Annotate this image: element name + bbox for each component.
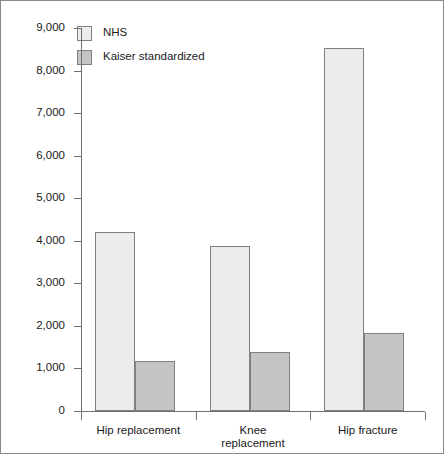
y-axis-tick [74,283,81,284]
bar [250,352,290,411]
legend-label-kaiser: Kaiser standardized [103,51,205,63]
bar [210,246,250,411]
y-axis-tick [74,241,81,242]
x-axis-category-label: Hip fracture [338,424,397,437]
bar [135,361,175,411]
bar-chart-figure: NHS Kaiser standardized 01,0002,0003,000… [0,0,444,454]
y-axis-tick [74,411,81,412]
y-axis-tick-label: 8,000 [36,65,65,77]
y-axis-tick-label: 2,000 [36,320,65,332]
legend-swatch-kaiser [77,50,92,65]
x-axis-tick [81,412,82,420]
bar [364,333,404,411]
y-axis-tick [74,28,81,29]
y-axis-tick-label: 3,000 [36,278,65,290]
y-axis-tick [74,113,81,114]
y-axis-tick [74,198,81,199]
x-axis-category-label: Knee replacement [221,424,284,450]
y-axis-tick [74,326,81,327]
x-axis-tick [196,412,197,420]
bar [324,48,364,411]
x-axis-tick [310,412,311,420]
y-axis-tick-label: 7,000 [36,107,65,119]
y-axis-tick [74,368,81,369]
y-axis-line [81,28,82,412]
y-axis-tick [74,156,81,157]
legend-label-nhs: NHS [103,27,127,39]
y-axis-tick-label: 1,000 [36,363,65,375]
x-axis-category-label: Hip replacement [96,424,180,437]
bar [95,232,135,411]
y-axis-tick-label: 4,000 [36,235,65,247]
legend-item-kaiser: Kaiser standardized [77,45,205,69]
x-axis-tick [425,412,426,420]
y-axis-tick-label: 0 [59,405,65,417]
x-axis-line [81,411,425,412]
y-axis-tick-label: 9,000 [36,22,65,34]
y-axis-tick-label: 6,000 [36,150,65,162]
legend-item-nhs: NHS [77,21,205,45]
y-axis-tick-label: 5,000 [36,192,65,204]
y-axis-tick [74,71,81,72]
chart-legend: NHS Kaiser standardized [77,21,205,69]
